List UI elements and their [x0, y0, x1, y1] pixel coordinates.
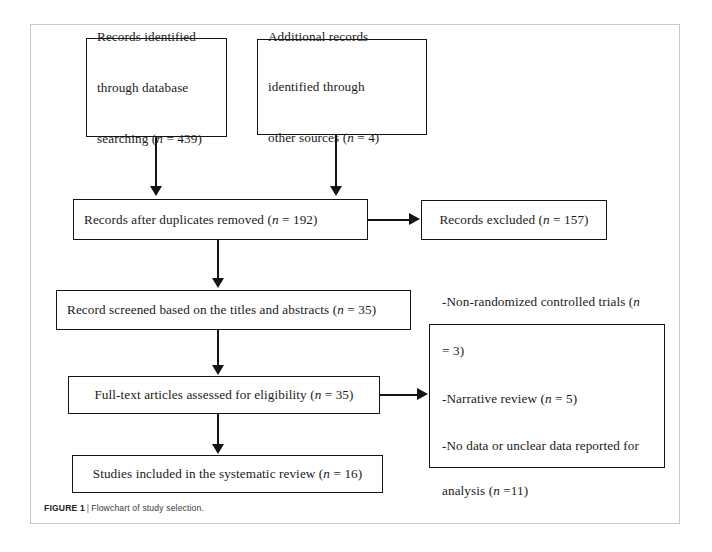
box-fulltext-assessed: Full-text articles assessed for eligibil…: [68, 376, 380, 414]
box-fulltext-assessed-text: Full-text articles assessed for eligibil…: [94, 387, 353, 403]
line-text: Records after duplicates removed (: [84, 212, 272, 227]
line-text: identified through: [268, 79, 365, 94]
line-text: searching (: [97, 131, 156, 146]
figure-caption: FIGURE 1|Flowchart of study selection.: [44, 503, 204, 513]
box-additional-records-other-sources: Additional records identified through ot…: [257, 39, 427, 135]
box-additional-records-text: Additional records identified through ot…: [268, 0, 379, 176]
connector-box1-to-duplicates: [155, 137, 157, 187]
n-symbol: n: [633, 294, 640, 309]
connector-duplicates-to-screened: [217, 240, 219, 280]
connector-duplicates-to-excluded: [368, 219, 410, 221]
line-text: Studies included in the systematic revie…: [93, 466, 324, 481]
box-records-identified-database-text: Records identified through database sear…: [97, 0, 202, 176]
connector-box2-to-duplicates: [335, 135, 337, 187]
line-text: = 35): [321, 387, 353, 402]
figure-caption-text: Flowchart of study selection.: [91, 503, 204, 513]
reason-text: -No data or unclear data reported for: [442, 438, 639, 453]
n-symbol: n: [272, 212, 279, 227]
arrowhead-fulltext-to-reasons: [417, 388, 428, 400]
figure-page: Records identified through database sear…: [0, 0, 712, 552]
reason-text: analysis (: [442, 483, 493, 498]
n-symbol: n: [545, 391, 552, 406]
line-text: = 4): [354, 130, 380, 145]
box-fulltext-exclusion-reasons-text: -Non-randomized controlled trials (n = 3…: [442, 265, 640, 526]
line-text: = 192): [279, 212, 318, 227]
box-records-after-duplicates-removed: Records after duplicates removed (n = 19…: [73, 199, 368, 240]
arrowhead-screened-to-fulltext: [212, 365, 224, 375]
arrowhead-fulltext-to-included: [212, 444, 224, 454]
box-records-identified-database: Records identified through database sear…: [86, 38, 227, 137]
n-symbol: n: [347, 130, 354, 145]
connector-screened-to-fulltext: [217, 330, 219, 367]
box-studies-included: Studies included in the systematic revie…: [72, 455, 383, 493]
line-text: Record screened based on the titles and …: [67, 302, 337, 317]
reason-text: -Non-randomized controlled trials (: [442, 294, 633, 309]
figure-number-label: FIGURE 1: [44, 503, 85, 513]
line-text: Additional records: [268, 29, 368, 44]
reason-text: =11): [500, 483, 528, 498]
connector-fulltext-to-included: [217, 414, 219, 446]
box-records-after-duplicates-text: Records after duplicates removed (n = 19…: [84, 212, 318, 228]
line-text: Full-text articles assessed for eligibil…: [94, 387, 314, 402]
reason-text: -Narrative review (: [442, 391, 545, 406]
n-symbol: n: [543, 212, 550, 227]
line-text: Records identified: [97, 29, 196, 44]
line-text: = 35): [344, 302, 376, 317]
line-text: = 157): [550, 212, 589, 227]
connector-fulltext-to-reasons: [380, 394, 418, 396]
arrowhead-duplicates-to-screened: [212, 278, 224, 288]
line-text: through database: [97, 80, 188, 95]
box-records-screened: Record screened based on the titles and …: [56, 290, 411, 330]
n-symbol: n: [493, 483, 500, 498]
box-records-excluded: Records excluded (n = 157): [421, 200, 607, 240]
arrowhead-box1-to-duplicates: [150, 186, 162, 196]
box-records-excluded-text: Records excluded (n = 157): [439, 212, 588, 228]
n-symbol: n: [337, 302, 344, 317]
line-text: = 439): [163, 131, 202, 146]
line-text: Records excluded (: [439, 212, 543, 227]
line-text: = 16): [330, 466, 362, 481]
reason-text: = 3): [442, 343, 464, 358]
arrowhead-duplicates-to-excluded: [409, 213, 420, 225]
box-studies-included-text: Studies included in the systematic revie…: [93, 466, 363, 482]
reason-text: = 5): [552, 391, 578, 406]
arrowhead-box2-to-duplicates: [330, 186, 342, 196]
box-fulltext-exclusion-reasons: -Non-randomized controlled trials (n = 3…: [429, 324, 665, 468]
box-records-screened-text: Record screened based on the titles and …: [67, 302, 376, 318]
